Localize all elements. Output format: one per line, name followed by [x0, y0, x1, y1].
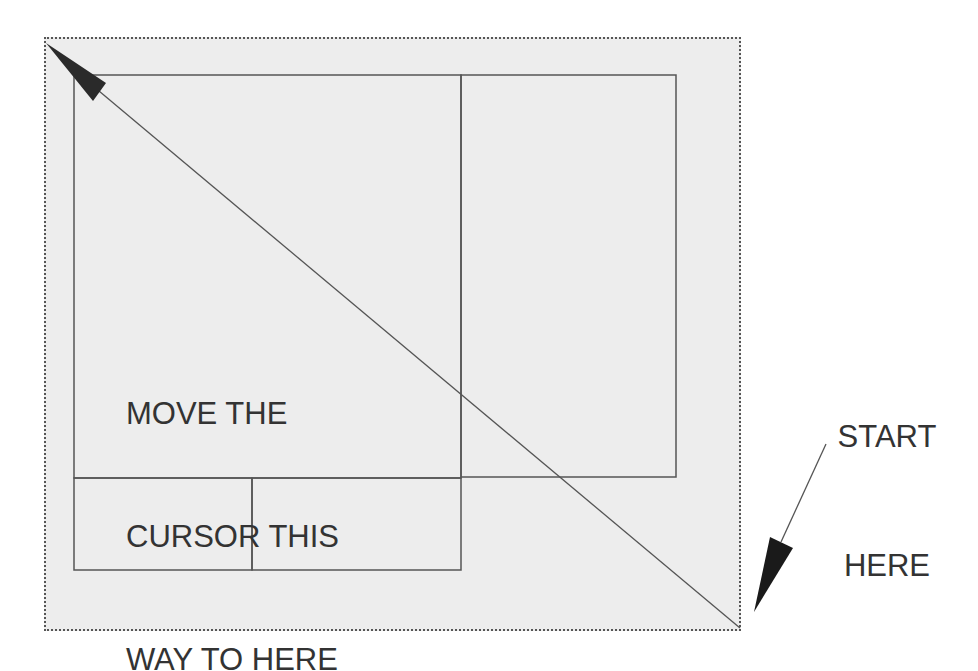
start-line-1: START [820, 415, 954, 458]
start-here-text: START HERE [820, 329, 954, 630]
start-line-2: HERE [820, 544, 954, 587]
instruction-line-2: CURSOR THIS [126, 516, 339, 557]
main-right-panel [461, 75, 676, 477]
start-pointer-arrowhead-icon [754, 537, 793, 612]
instruction-text: MOVE THE CURSOR THIS WAY TO HERE [126, 311, 339, 671]
instruction-line-3: WAY TO HERE [126, 639, 339, 671]
instruction-line-1: MOVE THE [126, 393, 339, 434]
drag-end-arrowhead-icon [46, 43, 106, 101]
